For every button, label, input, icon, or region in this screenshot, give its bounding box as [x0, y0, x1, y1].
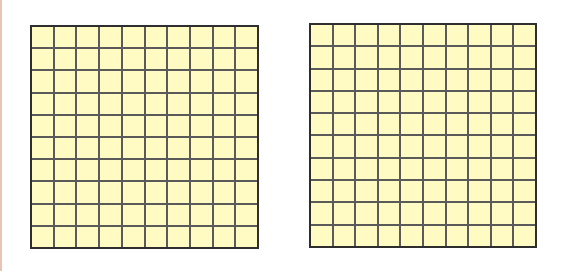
grid-cell — [236, 94, 257, 114]
grid-cell — [492, 25, 513, 45]
grid-cell — [55, 49, 76, 69]
grid-cell — [214, 160, 235, 180]
grid-cell — [356, 47, 377, 67]
grid-cell — [311, 47, 332, 67]
grid-cell — [168, 205, 189, 225]
grid-cell — [123, 160, 144, 180]
grid-cell — [100, 71, 121, 91]
grid-cell — [146, 160, 167, 180]
grid-cell — [311, 114, 332, 134]
grid-cell — [514, 181, 535, 201]
grid-cell — [469, 181, 490, 201]
grid-cell — [492, 159, 513, 179]
grid-cell — [379, 47, 400, 67]
grid-cell — [32, 205, 53, 225]
grid-cell — [236, 138, 257, 158]
grid-cell — [469, 159, 490, 179]
grid-cell — [379, 136, 400, 156]
grid-cell — [77, 205, 98, 225]
grid-cell — [447, 226, 468, 246]
grid-cell — [123, 71, 144, 91]
grid-cell — [32, 116, 53, 136]
grid-cell — [356, 203, 377, 223]
grid-cell — [424, 136, 445, 156]
grid-cell — [379, 226, 400, 246]
grid-cell — [214, 227, 235, 247]
grid-cell — [191, 49, 212, 69]
grid-cell — [401, 226, 422, 246]
grid-cell — [401, 47, 422, 67]
grid-cell — [191, 116, 212, 136]
grid-cell — [77, 49, 98, 69]
grid-cell — [32, 49, 53, 69]
grid-cell — [100, 227, 121, 247]
grid-cell — [356, 25, 377, 45]
grid-cell — [146, 49, 167, 69]
grid-cell — [77, 138, 98, 158]
grid-cell — [146, 182, 167, 202]
grid-cell — [424, 226, 445, 246]
grid-cell — [447, 181, 468, 201]
grid-cell — [236, 205, 257, 225]
grid-cell — [100, 116, 121, 136]
left-edge-border — [0, 0, 2, 271]
grid-cell — [236, 49, 257, 69]
grid-cell — [214, 71, 235, 91]
grid-cell — [191, 160, 212, 180]
grid-cell — [311, 25, 332, 45]
grid-cell — [168, 138, 189, 158]
grid-cell — [55, 138, 76, 158]
grid-cell — [32, 227, 53, 247]
grid-cell — [447, 136, 468, 156]
grid-cell — [191, 205, 212, 225]
grid-cell — [32, 160, 53, 180]
grid-cell — [334, 25, 355, 45]
grid-cell — [447, 47, 468, 67]
grid-cell — [77, 227, 98, 247]
grid-cell — [401, 70, 422, 90]
grid-cell — [191, 94, 212, 114]
grid-cell — [492, 226, 513, 246]
grid-cell — [469, 226, 490, 246]
grid-cell — [123, 94, 144, 114]
grid-cell — [32, 182, 53, 202]
grid-cell — [356, 70, 377, 90]
grid-cell — [424, 181, 445, 201]
hundred-grid-right — [309, 23, 537, 248]
grid-cell — [379, 92, 400, 112]
grid-cell — [123, 182, 144, 202]
grid-cell — [123, 205, 144, 225]
grid-cell — [469, 70, 490, 90]
grid-cell — [146, 94, 167, 114]
grid-cell — [492, 136, 513, 156]
grid-cell — [447, 159, 468, 179]
grid-cell — [401, 25, 422, 45]
grid-cell — [77, 27, 98, 47]
grid-cell — [55, 94, 76, 114]
grid-cell — [514, 47, 535, 67]
grid-cell — [191, 71, 212, 91]
grid-cell — [55, 205, 76, 225]
grid-cell — [311, 136, 332, 156]
grid-cell — [469, 92, 490, 112]
grid-cell — [100, 182, 121, 202]
grid-cell — [191, 227, 212, 247]
grid-cell — [334, 226, 355, 246]
grid-cell — [424, 25, 445, 45]
grid-cell — [214, 94, 235, 114]
grid-cell — [514, 70, 535, 90]
grid-cell — [492, 70, 513, 90]
grid-cell — [356, 226, 377, 246]
grid-cell — [514, 159, 535, 179]
grid-cell — [77, 160, 98, 180]
grid-cell — [447, 203, 468, 223]
grid-cell — [424, 203, 445, 223]
grid-cell — [55, 116, 76, 136]
grid-cell — [168, 227, 189, 247]
grid-cell — [236, 160, 257, 180]
grid-cell — [236, 27, 257, 47]
grid-cell — [168, 116, 189, 136]
grid-cell — [356, 92, 377, 112]
grid-cell — [514, 25, 535, 45]
grid-cell — [100, 27, 121, 47]
